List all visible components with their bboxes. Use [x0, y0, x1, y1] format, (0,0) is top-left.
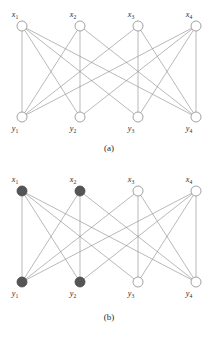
label-x3: x3: [127, 10, 135, 20]
panel-b-edges: [22, 193, 196, 279]
node-x2: [75, 186, 85, 196]
panel-b-labels: x1x2x3x4y1y2y3y4: [11, 175, 193, 299]
label-x4: x4: [185, 175, 193, 185]
label-x1: x1: [11, 175, 19, 185]
label-y1: y1: [11, 289, 19, 299]
node-y3: [133, 277, 143, 287]
node-y1: [17, 277, 27, 287]
label-y4: y4: [185, 124, 193, 134]
label-y2: y2: [69, 124, 77, 134]
panel-a-labels: x1x2x3x4y1y2y3y4: [11, 10, 193, 134]
node-y2: [75, 112, 85, 122]
label-y4: y4: [185, 289, 193, 299]
node-y4: [191, 277, 201, 287]
panel-a: x1x2x3x4y1y2y3y4 (a): [0, 0, 218, 165]
panel-a-edges: [22, 28, 196, 114]
node-x4: [191, 21, 201, 31]
panel-b: x1x2x3x4y1y2y3y4 (b): [0, 165, 218, 344]
node-y3: [133, 112, 143, 122]
node-x1: [17, 186, 27, 196]
label-x2: x2: [69, 175, 77, 185]
node-x2: [75, 21, 85, 31]
label-y3: y3: [127, 124, 135, 134]
label-y1: y1: [11, 124, 19, 134]
node-x3: [133, 21, 143, 31]
label-x2: x2: [69, 10, 77, 20]
label-y3: y3: [127, 289, 135, 299]
node-x3: [133, 186, 143, 196]
label-y2: y2: [69, 289, 77, 299]
label-x3: x3: [127, 175, 135, 185]
node-y2: [75, 277, 85, 287]
panel-b-caption: (b): [104, 312, 115, 322]
node-x1: [17, 21, 27, 31]
label-x1: x1: [11, 10, 19, 20]
node-x4: [191, 186, 201, 196]
node-y1: [17, 112, 27, 122]
panel-a-caption: (a): [104, 143, 114, 153]
figure-root: x1x2x3x4y1y2y3y4 (a) x1x2x3x4y1y2y3y4 (b…: [0, 0, 218, 344]
node-y4: [191, 112, 201, 122]
label-x4: x4: [185, 10, 193, 20]
